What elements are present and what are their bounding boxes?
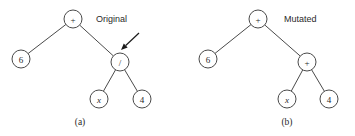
tree-edge-root-right [265, 25, 300, 56]
panel-caption-a: (a) [75, 117, 86, 128]
panels-group: +6/x4Original(a)+6+x4Mutated(b) [12, 10, 338, 128]
tree-node-label-left: 6 [206, 55, 211, 65]
mutation-pointer-arrow-shaft [126, 33, 139, 46]
tree-node-label-rl: x [96, 95, 101, 105]
tree-edge-right-rr [125, 70, 138, 92]
tree-node-label-root: + [255, 15, 260, 25]
tree-edge-root-left [215, 25, 251, 54]
tree-panel-a: +6/x4Original(a) [12, 10, 151, 128]
tree-edge-right-rl [291, 70, 302, 91]
tree-node-label-rl: x [284, 95, 289, 105]
tree-node-label-left: 6 [19, 55, 24, 65]
tree-node-label-rr: 4 [140, 95, 145, 105]
expression-tree-diagram: +6/x4Original(a)+6+x4Mutated(b) [0, 0, 355, 136]
tree-panel-b: +6+x4Mutated(b) [199, 10, 338, 128]
tree-node-label-rr: 4 [327, 95, 332, 105]
figure-container: +6/x4Original(a)+6+x4Mutated(b) [0, 0, 355, 136]
tree-edge-right-rl [103, 70, 115, 91]
tree-edge-right-rr [312, 70, 325, 92]
panel-caption-b: (b) [281, 117, 292, 128]
panel-annotation-b: Mutated [284, 14, 317, 24]
tree-edge-root-left [28, 24, 66, 53]
panel-annotation-a: Original [96, 14, 127, 24]
tree-node-label-right: + [304, 58, 309, 68]
tree-node-label-root: + [70, 15, 75, 25]
tree-edge-root-right [80, 25, 114, 56]
